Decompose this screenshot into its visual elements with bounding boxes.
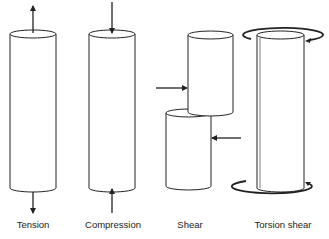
tension-cylinder — [10, 30, 56, 192]
label-tension: Tension — [0, 219, 73, 230]
label-torsion-shear: Torsion shear — [243, 219, 323, 230]
label-compression: Compression — [73, 219, 153, 230]
torsion-cylinder — [257, 31, 304, 192]
shear-upper-cylinder — [188, 31, 233, 116]
shear-lower-cylinder — [166, 109, 211, 190]
label-shear: Shear — [150, 219, 230, 230]
compression-cylinder — [89, 30, 135, 192]
stress-types-diagram — [0, 0, 329, 239]
